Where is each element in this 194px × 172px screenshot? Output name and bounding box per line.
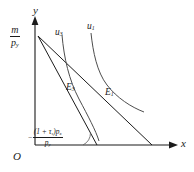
slope-numerator-head: (1 + τ <box>34 127 52 136</box>
slope-fraction: (1 + τs)px py <box>33 128 63 147</box>
slope-numerator: (1 + τs)px <box>33 128 63 138</box>
x-axis-label: x <box>181 138 186 149</box>
y-intercept-label: m py <box>10 25 20 48</box>
curve-label-u1-subscript: 1 <box>92 25 95 31</box>
point-label-e1-subscript: 1 <box>111 91 114 97</box>
slope-angle-arc <box>83 133 91 146</box>
y-intercept-numerator: m <box>10 25 20 37</box>
y-axis-label: y <box>33 5 38 16</box>
y-intercept-denominator-subscript: y <box>16 41 19 48</box>
indifference-curve-figure: y x O m py − (1 + τs)px py u3 u1 E3 E1 <box>0 0 194 172</box>
y-intercept-fraction: m py <box>10 25 20 48</box>
slope-label: − (1 + τs)px py <box>28 128 63 147</box>
point-label-e3-subscript: 3 <box>72 86 75 92</box>
y-axis-arrow-icon <box>32 16 39 25</box>
x-axis-arrow-icon <box>169 142 178 149</box>
point-label-e1: E1 <box>105 88 114 98</box>
origin-label: O <box>13 151 21 162</box>
indifference-curve-u1 <box>91 33 144 112</box>
y-intercept-denominator: py <box>10 37 20 48</box>
slope-numerator-tail-subscript: x <box>60 131 62 136</box>
curve-label-u3-subscript: 3 <box>60 31 63 37</box>
point-label-e3: E3 <box>66 83 75 93</box>
curve-label-u3: u3 <box>55 28 63 38</box>
curve-label-u1: u1 <box>87 22 95 32</box>
slope-denominator: py <box>33 138 63 147</box>
slope-denominator-subscript: y <box>49 142 51 147</box>
slope-minus-sign: − <box>28 134 32 142</box>
